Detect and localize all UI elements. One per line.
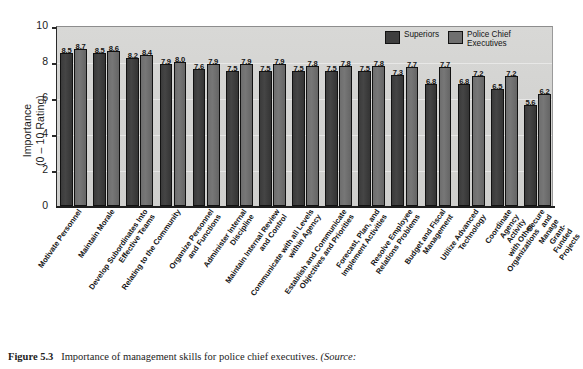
bar-superiors[interactable]: 7.5	[259, 71, 272, 206]
bar-superiors[interactable]: 7.9	[160, 64, 173, 206]
bar-superiors[interactable]: 6.8	[458, 84, 471, 206]
plot-area: 8.58.78.58.68.28.47.98.07.67.97.57.97.57…	[56, 26, 553, 206]
bar-group: 5.66.2	[524, 27, 551, 206]
bar-superiors[interactable]: 8.5	[60, 53, 73, 206]
bar-group: 7.67.9	[193, 27, 220, 206]
figure-caption: Figure 5.3 Importance of management skil…	[8, 350, 553, 363]
legend-swatch-icon	[448, 31, 463, 44]
y-tick-label: 4	[22, 127, 48, 139]
bar-pce[interactable]: 7.9	[273, 64, 286, 206]
bar-value-label: 7.5	[327, 64, 337, 73]
bars-layer: 8.58.78.58.68.28.47.98.07.67.97.57.97.57…	[57, 27, 552, 206]
bar-value-label: 6.2	[539, 87, 549, 96]
bar-superiors[interactable]: 7.5	[292, 71, 305, 206]
figure-caption-source: (Source:	[320, 351, 356, 362]
bar-superiors[interactable]: 6.8	[425, 84, 438, 206]
y-tick-label: 2	[22, 163, 48, 175]
bar-value-label: 8.6	[109, 44, 119, 53]
bar-group: 7.57.9	[226, 27, 253, 206]
figure-caption-text: Importance of management skills for poli…	[61, 351, 318, 362]
bar-value-label: 8.5	[62, 46, 72, 55]
x-category-label: Motivate Personnel	[37, 208, 84, 270]
bar-superiors[interactable]: 8.5	[93, 53, 106, 206]
legend-item[interactable]: Superiors	[385, 30, 439, 44]
x-category-label: Secure and Manage Grant-Funded Projects	[523, 208, 582, 262]
bar-superiors[interactable]: 6.5	[491, 89, 504, 206]
bar-pce[interactable]: 8.4	[140, 55, 153, 206]
bar-superiors[interactable]: 7.3	[391, 75, 404, 206]
bar-pce[interactable]: 7.2	[472, 76, 485, 206]
legend-label: Superiors	[404, 30, 439, 39]
bar-value-label: 7.3	[393, 68, 403, 77]
bar-value-label: 7.5	[260, 64, 270, 73]
figure-caption-spacer	[53, 351, 61, 362]
bar-value-label: 7.5	[360, 64, 370, 73]
bar-group: 6.57.2	[491, 27, 518, 206]
bar-value-label: 7.5	[293, 64, 303, 73]
bar-pce[interactable]: 8.0	[174, 62, 187, 206]
bar-group: 8.28.4	[126, 27, 153, 206]
bar-superiors[interactable]: 7.5	[226, 71, 239, 206]
legend-label: Police Chief Executives	[467, 30, 511, 49]
legend-swatch-icon	[385, 31, 400, 44]
bar-group: 7.57.8	[325, 27, 352, 206]
bar-pce[interactable]: 8.7	[74, 49, 87, 206]
bar-value-label: 7.7	[440, 60, 450, 69]
bar-value-label: 7.9	[274, 57, 284, 66]
bar-pce[interactable]: 7.9	[207, 64, 220, 206]
bar-pce[interactable]: 7.7	[439, 67, 452, 206]
bar-value-label: 7.9	[161, 57, 171, 66]
bar-pce[interactable]: 7.8	[306, 66, 319, 206]
bar-group: 7.57.8	[292, 27, 319, 206]
bar-pce[interactable]: 7.2	[505, 76, 518, 206]
bar-group: 6.87.7	[425, 27, 452, 206]
bar-group: 6.87.2	[458, 27, 485, 206]
bar-pce[interactable]: 7.8	[372, 66, 385, 206]
y-tick-label: 6	[22, 91, 48, 103]
y-tick-label: 10	[22, 19, 48, 31]
bar-pce[interactable]: 7.7	[406, 67, 419, 206]
bar-value-label: 6.8	[459, 77, 469, 86]
bar-group: 7.98.0	[160, 27, 187, 206]
bar-group: 7.37.7	[391, 27, 418, 206]
bar-value-label: 7.2	[473, 69, 483, 78]
bar-value-label: 7.2	[506, 69, 516, 78]
bar-value-label: 7.9	[208, 57, 218, 66]
bar-value-label: 7.7	[407, 60, 417, 69]
bar-value-label: 5.6	[525, 98, 535, 107]
bar-value-label: 6.8	[426, 77, 436, 86]
bar-value-label: 8.0	[175, 55, 185, 64]
bar-pce[interactable]: 8.6	[107, 51, 120, 206]
bar-value-label: 7.8	[308, 59, 318, 68]
bar-group: 8.58.6	[93, 27, 120, 206]
bar-value-label: 8.2	[128, 51, 138, 60]
bar-group: 8.58.7	[60, 27, 87, 206]
bar-value-label: 8.5	[95, 46, 105, 55]
bar-value-label: 7.9	[241, 57, 251, 66]
x-axis-labels: Motivate PersonnelMaintain MoraleDevelop…	[0, 208, 561, 336]
bar-value-label: 8.7	[76, 42, 86, 51]
figure-caption-label: Figure 5.3	[8, 351, 53, 362]
bar-pce[interactable]: 7.9	[240, 64, 253, 206]
bar-value-label: 6.5	[492, 82, 502, 91]
bar-value-label: 7.8	[341, 59, 351, 68]
bar-value-label: 8.4	[142, 48, 152, 57]
bar-superiors[interactable]: 7.5	[358, 71, 371, 206]
bar-group: 7.57.8	[358, 27, 385, 206]
bar-pce[interactable]: 7.8	[339, 66, 352, 206]
bar-superiors[interactable]: 7.5	[325, 71, 338, 206]
bar-superiors[interactable]: 5.6	[524, 105, 537, 206]
bar-superiors[interactable]: 7.6	[193, 69, 206, 206]
bar-group: 7.57.9	[259, 27, 286, 206]
bar-superiors[interactable]: 8.2	[126, 58, 139, 206]
bar-pce[interactable]: 6.2	[538, 94, 551, 206]
chart-legend: SuperiorsPolice Chief Executives	[385, 30, 511, 49]
legend-item[interactable]: Police Chief Executives	[448, 30, 511, 49]
bar-value-label: 7.5	[227, 64, 237, 73]
y-tick-label: 8	[22, 55, 48, 67]
bar-value-label: 7.8	[374, 59, 384, 68]
bar-value-label: 7.6	[194, 62, 204, 71]
